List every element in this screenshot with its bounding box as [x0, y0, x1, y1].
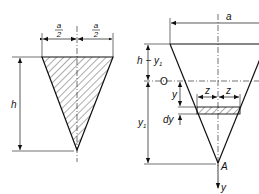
- label-h: h: [11, 99, 17, 110]
- right-triangle-left-edge: [170, 44, 218, 163]
- label-apex-A: A: [220, 161, 228, 172]
- label-y: y: [171, 89, 178, 100]
- right-figure: y a O h − y1 y1 y dy: [137, 11, 259, 193]
- label-dy: dy: [163, 114, 175, 125]
- label-a: a: [226, 11, 232, 22]
- label-h-minus-y1: h − y1: [137, 55, 162, 67]
- label-z-right: z: [225, 85, 231, 96]
- label-origin: O: [160, 76, 168, 87]
- strip-element: [197, 107, 240, 114]
- left-triangle: [42, 57, 113, 150]
- label-a-over-2-right-den: 2: [93, 30, 99, 39]
- label-a-over-2-left-num: a: [57, 21, 62, 30]
- label-z-left: z: [204, 85, 210, 96]
- label-y1: y1: [137, 117, 146, 129]
- right-triangle-right-edge: [218, 44, 259, 163]
- label-a-over-2-right-num: a: [94, 21, 99, 30]
- label-y-axis: y: [220, 182, 227, 193]
- diagram-canvas: a 2 a 2 h y a O h: [0, 0, 259, 194]
- label-a-over-2-left-den: 2: [56, 30, 62, 39]
- left-figure: a 2 a 2 h: [11, 21, 113, 162]
